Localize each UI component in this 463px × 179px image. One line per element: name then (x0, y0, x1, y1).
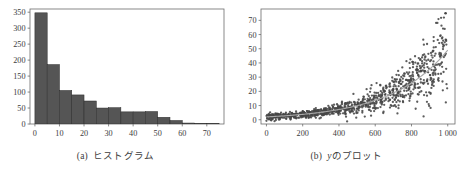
scatter-point (295, 110, 297, 112)
scatter-point (444, 41, 446, 43)
scatter-point (414, 82, 416, 84)
scatter-point (369, 91, 371, 93)
y-tick-label: 30 (248, 73, 256, 82)
scatter-point (441, 80, 443, 82)
scatter-point (423, 94, 425, 96)
scatter-point (391, 76, 393, 78)
scatter-point (392, 101, 394, 103)
scatter-point (365, 88, 367, 90)
scatter-point (430, 69, 432, 71)
y-tick-label: 100 (13, 88, 25, 97)
histogram-bar (133, 112, 145, 124)
scatter-point (391, 97, 393, 99)
scatter-point (295, 117, 297, 119)
scatter-point (369, 98, 371, 100)
scatter-point (332, 106, 334, 108)
scatter-point (389, 91, 391, 93)
histogram-bar (170, 120, 182, 124)
scatter-point (400, 76, 402, 78)
scatter-point (342, 112, 344, 114)
scatter-point (331, 112, 333, 114)
histogram-bar (121, 112, 133, 124)
scatter-point (393, 83, 395, 85)
scatter-point (409, 95, 411, 97)
scatter-point (270, 114, 272, 116)
scatter-point (432, 60, 434, 62)
histogram-caption-label: (a) (77, 151, 88, 161)
scatter-point (385, 84, 387, 86)
scatter-point (432, 71, 434, 73)
scatter-point (353, 101, 355, 103)
scatter-point (381, 91, 383, 93)
scatter-point (405, 79, 407, 81)
scatter-point (429, 107, 431, 109)
scatter-point (435, 46, 437, 48)
scatter-point (384, 93, 386, 95)
scatter-point (422, 82, 424, 84)
scatter-point (369, 103, 371, 105)
scatter-point (430, 59, 432, 61)
x-tick-label: 800 (405, 129, 417, 138)
scatter-point (391, 105, 393, 107)
x-tick-label: 70 (203, 129, 211, 138)
histogram-caption-text: ヒストグラム (93, 151, 154, 161)
scatter-point (385, 99, 387, 101)
scatter-point (426, 43, 428, 45)
scatter-point (430, 87, 432, 89)
scatter-point (409, 67, 411, 69)
scatter-point (423, 44, 425, 46)
scatter-point (432, 74, 434, 76)
scatter-point (436, 22, 438, 24)
y-tick-label: 200 (13, 56, 25, 65)
x-tick-label: 400 (333, 129, 345, 138)
scatter-point (395, 81, 397, 83)
scatter-point (400, 95, 402, 97)
scatter-point (397, 99, 399, 101)
scatter-point (370, 110, 372, 112)
scatter-point (320, 117, 322, 119)
scatter-point (410, 77, 412, 79)
histogram-bar (207, 123, 219, 124)
x-tick-label: 0 (33, 129, 37, 138)
scatter-point (344, 102, 346, 104)
scatter-point (443, 16, 445, 18)
scatter-point (422, 115, 424, 117)
scatter-point (354, 103, 356, 105)
y-tick-label: 10 (248, 102, 256, 111)
scatter-point (361, 111, 363, 113)
scatter-point (383, 104, 385, 106)
scatter-point (395, 101, 397, 103)
scatter-point (421, 56, 423, 58)
scatter-point (352, 110, 354, 112)
scatter-point (397, 93, 399, 95)
scatter-point (438, 53, 440, 55)
scatter-point (370, 84, 372, 86)
y-tick-label: 0 (252, 116, 256, 125)
scatter-point (423, 67, 425, 69)
scatter-point (406, 90, 408, 92)
scatter-point (364, 98, 366, 100)
scatter-point (412, 66, 414, 68)
scatter-point (416, 72, 418, 74)
scatter-point (439, 35, 441, 37)
scatter-point (437, 79, 439, 81)
scatter-point (373, 105, 375, 107)
panel-scatter: 02004006008001 000010203040506070 (b)yのプ… (231, 0, 462, 179)
scatter-point (444, 38, 446, 40)
scatter-caption-text: のプロット (332, 151, 383, 161)
scatter-point (346, 120, 348, 122)
scatter-point (418, 93, 420, 95)
scatter-point (285, 118, 287, 120)
scatter-point (394, 78, 396, 80)
scatter-point (388, 83, 390, 85)
scatter-point (397, 70, 399, 72)
scatter-point (432, 50, 434, 52)
scatter-point (440, 63, 442, 65)
scatter-point (416, 70, 418, 72)
x-tick-label: 200 (297, 129, 309, 138)
figure-row: 010203040506070050100150200250300350 (a)… (0, 0, 463, 179)
scatter-point (413, 85, 415, 87)
y-tick-label: 0 (21, 120, 25, 129)
scatter-point (355, 117, 357, 119)
histogram-bar (109, 108, 121, 124)
